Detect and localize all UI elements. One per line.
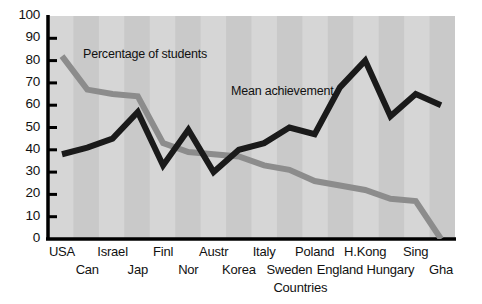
y-tick-label-60: 60 bbox=[12, 96, 40, 111]
x-tick-label-usa: USA bbox=[49, 244, 75, 259]
x-tick-label-italy: Italy bbox=[253, 244, 276, 259]
x-tick-label-nor: Nor bbox=[178, 262, 198, 277]
y-tick-label-90: 90 bbox=[12, 29, 40, 44]
x-tick-label-hungary: Hungary bbox=[367, 262, 415, 277]
x-tick-label-sweden: Sweden bbox=[267, 262, 313, 277]
series-annotation-1: Mean achievement bbox=[231, 84, 333, 98]
x-tick-label-finl: Finl bbox=[153, 244, 173, 259]
y-tick-label-10: 10 bbox=[12, 208, 40, 223]
x-axis-title: Countries bbox=[273, 280, 327, 295]
x-tick-label-england: England bbox=[317, 262, 363, 277]
chart-figure: 0102030405060708090100 USACanIsraelJapFi… bbox=[0, 0, 482, 304]
y-tick-label-40: 40 bbox=[12, 141, 40, 156]
x-tick-label-poland: Poland bbox=[295, 244, 334, 259]
x-tick-label-can: Can bbox=[76, 262, 99, 277]
y-tick-label-30: 30 bbox=[12, 163, 40, 178]
series-annotation-0: Percentage of students bbox=[83, 47, 207, 61]
y-tick-label-80: 80 bbox=[12, 52, 40, 67]
x-tick-label-korea: Korea bbox=[222, 262, 256, 277]
y-tick-label-100: 100 bbox=[12, 7, 40, 22]
x-tick-label-sing: Sing bbox=[403, 244, 428, 259]
x-tick-label-gha: Gha bbox=[429, 262, 453, 277]
x-tick-label-jap: Jap bbox=[128, 262, 148, 277]
x-tick-label-austr: Austr bbox=[199, 244, 228, 259]
y-tick-label-50: 50 bbox=[12, 119, 40, 134]
y-tick-label-70: 70 bbox=[12, 74, 40, 89]
y-tick-label-20: 20 bbox=[12, 185, 40, 200]
x-tick-label-israel: Israel bbox=[97, 244, 128, 259]
x-tick-label-h-kong: H.Kong bbox=[344, 244, 386, 259]
y-tick-label-0: 0 bbox=[12, 230, 40, 245]
